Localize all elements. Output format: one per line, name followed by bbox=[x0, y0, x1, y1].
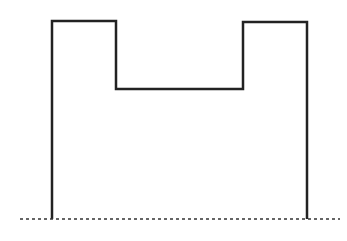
notched-outline bbox=[52, 21, 307, 219]
diagram-canvas bbox=[0, 0, 347, 241]
